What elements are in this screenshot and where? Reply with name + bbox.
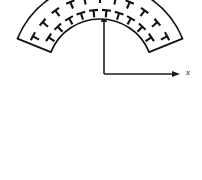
figure-canvas: y x <box>0 0 202 180</box>
x-axis-arrowhead <box>172 71 180 77</box>
tack-stem <box>94 10 95 17</box>
tack-stem <box>106 10 107 17</box>
diagram-svg: y x <box>0 0 202 180</box>
x-axis-label: x <box>185 67 190 77</box>
arch-annular-sector <box>17 0 182 52</box>
